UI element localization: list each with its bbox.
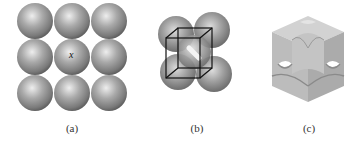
sphere-sections [292,33,324,74]
unit-cell-solid-illustration [270,14,346,104]
unit-cell-wireframe-illustration [156,12,236,98]
sphere-row-3 [17,75,127,111]
caption-c: (c) [294,122,324,134]
caption-b: (b) [182,122,212,134]
center-sphere-label: x [69,49,73,60]
panel-b [156,12,236,98]
caption-a: (a) [57,122,87,134]
panel-c [270,14,346,104]
panel-a: x [16,2,130,112]
sphere-row-1 [17,3,127,39]
